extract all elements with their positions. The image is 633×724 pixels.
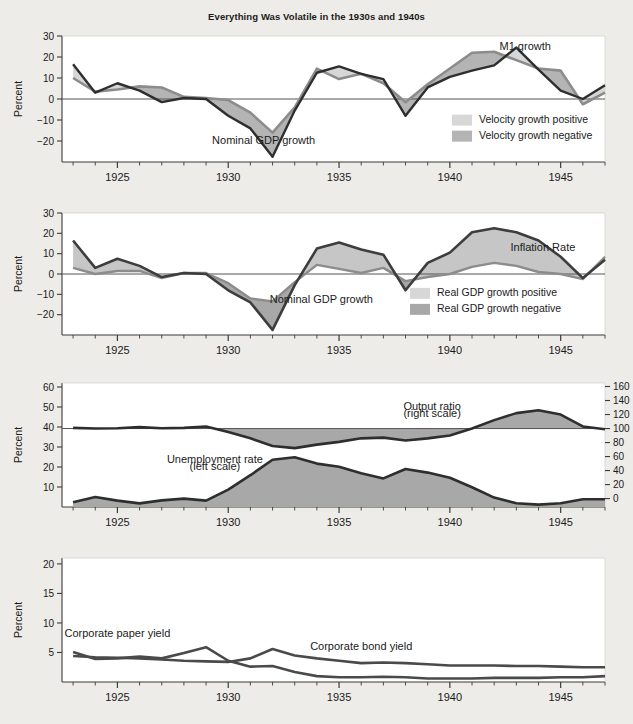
svg-text:15: 15 [43,588,55,599]
svg-text:−10: −10 [37,115,54,126]
svg-text:5: 5 [48,647,54,658]
svg-text:1940: 1940 [438,516,462,528]
svg-text:Percent: Percent [12,602,24,638]
svg-text:Velocity growth negative: Velocity growth negative [479,129,592,141]
svg-text:1930: 1930 [216,516,240,528]
svg-text:1935: 1935 [327,171,351,183]
svg-text:1925: 1925 [105,516,129,528]
svg-text:10: 10 [43,618,55,629]
svg-text:Corporate bond yield: Corporate bond yield [310,640,412,652]
panel-money: −20−10010203019251930193519401945Percent… [0,28,633,198]
svg-text:20: 20 [43,559,55,570]
svg-text:1945: 1945 [548,691,572,703]
figure-title-wrap: Everything Was Volatile in the 1930s and… [0,6,633,24]
svg-text:10: 10 [43,73,55,84]
svg-text:1930: 1930 [216,691,240,703]
svg-text:−20: −20 [37,309,54,320]
svg-text:140: 140 [613,395,630,406]
svg-text:(right scale): (right scale) [403,407,460,419]
svg-text:Inflation Rate: Inflation Rate [511,241,576,253]
svg-text:1940: 1940 [438,691,462,703]
svg-text:−10: −10 [37,289,54,300]
svg-text:20: 20 [43,462,55,473]
svg-text:20: 20 [43,52,55,63]
svg-text:1940: 1940 [438,344,462,356]
svg-text:10: 10 [43,482,55,493]
svg-text:1935: 1935 [327,691,351,703]
svg-text:1925: 1925 [105,344,129,356]
figure-title: Everything Was Volatile in the 1930s and… [208,11,425,22]
svg-text:30: 30 [43,208,55,219]
svg-text:0: 0 [48,269,54,280]
svg-text:40: 40 [43,422,55,433]
svg-text:Percent: Percent [12,256,24,292]
svg-text:Nominal GDP growth: Nominal GDP growth [212,134,315,146]
panel-inflation: −20−10010203019251930193519401945Percent… [0,205,633,370]
svg-text:Percent: Percent [12,81,24,117]
svg-text:160: 160 [613,381,630,392]
panel-yields-svg: 510152019251930193519401945PercentCorpor… [0,550,633,720]
svg-text:1925: 1925 [105,691,129,703]
panel-output-svg: 1020304050600204060801001201401601925193… [0,375,633,540]
panel-yields: 510152019251930193519401945PercentCorpor… [0,550,633,720]
svg-text:1935: 1935 [327,516,351,528]
figure-container: Everything Was Volatile in the 1930s and… [0,0,633,724]
svg-text:120: 120 [613,409,630,420]
svg-text:Percent: Percent [12,427,24,463]
svg-text:Velocity growth positive: Velocity growth positive [479,113,588,125]
svg-text:30: 30 [43,31,55,42]
svg-text:Real GDP growth negative: Real GDP growth negative [437,302,561,314]
svg-text:(left scale): (left scale) [190,460,241,472]
svg-text:Nominal GDP growth: Nominal GDP growth [270,293,373,305]
svg-text:Corporate paper yield: Corporate paper yield [65,627,171,639]
svg-text:0: 0 [48,94,54,105]
panel-inflation-svg: −20−10010203019251930193519401945Percent… [0,205,633,370]
svg-text:Real GDP growth positive: Real GDP growth positive [437,286,557,298]
panel-output: 1020304050600204060801001201401601925193… [0,375,633,540]
svg-text:40: 40 [613,465,625,476]
svg-text:50: 50 [43,402,55,413]
svg-text:1935: 1935 [327,344,351,356]
svg-text:1925: 1925 [105,171,129,183]
svg-text:1940: 1940 [438,171,462,183]
svg-text:30: 30 [43,442,55,453]
svg-text:20: 20 [613,479,625,490]
svg-text:1930: 1930 [216,344,240,356]
svg-text:80: 80 [613,437,625,448]
svg-text:60: 60 [43,382,55,393]
svg-text:10: 10 [43,248,55,259]
panel-money-svg: −20−10010203019251930193519401945Percent… [0,28,633,198]
svg-text:−20: −20 [37,136,54,147]
svg-text:1945: 1945 [548,344,572,356]
svg-text:1945: 1945 [548,171,572,183]
svg-text:1945: 1945 [548,516,572,528]
svg-text:100: 100 [613,423,630,434]
svg-text:60: 60 [613,451,625,462]
svg-text:M1 growth: M1 growth [500,40,551,52]
svg-text:20: 20 [43,228,55,239]
svg-text:1930: 1930 [216,171,240,183]
svg-text:0: 0 [613,493,619,504]
